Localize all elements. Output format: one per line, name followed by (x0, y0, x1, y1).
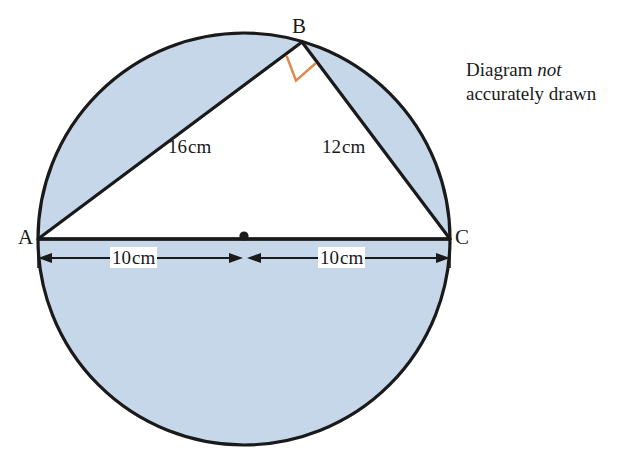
vertex-label-b: B (292, 14, 306, 38)
diagram-note-line2: accurately drawn (466, 82, 596, 106)
side-label-ab-unit: cm (188, 136, 211, 157)
dimension-label-centre-c-unit: cm (340, 247, 363, 268)
vertex-label-c: C (455, 225, 469, 249)
geometry-figure: B A C 16cm 12cm 10cm 10cm Diagram not ac… (0, 0, 634, 472)
dimension-label-centre-c-text: 10cm (318, 247, 365, 268)
dimension-label-a-centre-value: 10 (112, 247, 131, 268)
side-label-bc-unit: cm (342, 136, 365, 157)
diagram-note-line1: Diagram not (466, 58, 596, 82)
dimension-label-centre-c: 10cm (318, 247, 365, 269)
diagram-note: Diagram not accurately drawn (466, 58, 596, 107)
side-label-ab: 16cm (168, 136, 211, 158)
dimension-label-a-centre: 10cm (110, 247, 157, 269)
dimension-label-a-centre-text: 10cm (110, 247, 157, 268)
dimension-label-a-centre-unit: cm (132, 247, 155, 268)
vertex-label-a: A (18, 225, 33, 249)
side-label-ab-value: 16 (168, 136, 187, 157)
centre-point-dot (239, 231, 248, 240)
diagram-note-line1-prefix: Diagram (466, 59, 537, 80)
dimension-label-centre-c-value: 10 (320, 247, 339, 268)
diagram-note-emphasis: not (537, 59, 561, 80)
side-label-bc-value: 12 (322, 136, 341, 157)
side-label-bc: 12cm (322, 136, 365, 158)
